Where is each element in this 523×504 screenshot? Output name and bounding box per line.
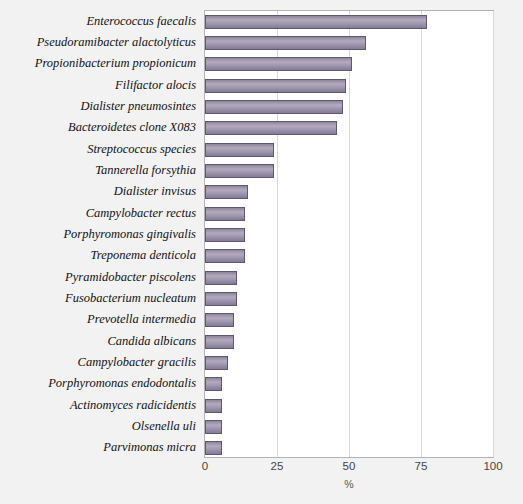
bar bbox=[205, 335, 234, 349]
bar-row bbox=[205, 420, 493, 434]
category-label: Fusobacterium nucleatum bbox=[65, 291, 196, 305]
category-label: Candida albicans bbox=[107, 334, 196, 348]
bar bbox=[205, 15, 427, 29]
category-label: Campylobacter rectus bbox=[86, 206, 196, 220]
category-label: Pyramidobacter piscolens bbox=[65, 270, 196, 284]
category-label: Actinomyces radicidentis bbox=[70, 398, 196, 412]
x-tick-label: 100 bbox=[483, 460, 502, 472]
category-label: Treponema denticola bbox=[91, 248, 196, 262]
bar bbox=[205, 36, 366, 50]
category-label: Prevotella intermedia bbox=[87, 312, 196, 326]
bar-row bbox=[205, 377, 493, 391]
x-tick-label: 75 bbox=[415, 460, 428, 472]
bar-row bbox=[205, 36, 493, 50]
bar bbox=[205, 313, 234, 327]
bar-row bbox=[205, 249, 493, 263]
bar bbox=[205, 164, 274, 178]
category-label: Dialister pneumosintes bbox=[80, 99, 196, 113]
bar bbox=[205, 57, 352, 71]
category-label: Propionibacterium propionicum bbox=[35, 56, 196, 70]
category-label: Campylobacter gracilis bbox=[78, 355, 196, 369]
category-label: Filifactor alocis bbox=[115, 78, 196, 92]
bar-row bbox=[205, 121, 493, 135]
x-tick-label: 25 bbox=[271, 460, 284, 472]
bar-row bbox=[205, 292, 493, 306]
category-label: Streptococcus species bbox=[87, 142, 196, 156]
gridline bbox=[493, 11, 494, 457]
bar bbox=[205, 441, 222, 455]
bar bbox=[205, 356, 228, 370]
bar bbox=[205, 292, 237, 306]
bar-row bbox=[205, 164, 493, 178]
bar bbox=[205, 271, 237, 285]
bar-row bbox=[205, 15, 493, 29]
category-label: Porphyromonas endodontalis bbox=[48, 376, 196, 390]
bar-row bbox=[205, 356, 493, 370]
bar bbox=[205, 121, 337, 135]
bar-row bbox=[205, 399, 493, 413]
bar bbox=[205, 228, 245, 242]
bar bbox=[205, 420, 222, 434]
bar bbox=[205, 399, 222, 413]
bar bbox=[205, 249, 245, 263]
category-label: Bacteroidetes clone X083 bbox=[68, 120, 196, 134]
category-label: Tannerella forsythia bbox=[95, 163, 196, 177]
plot-area bbox=[204, 10, 494, 458]
bar-row bbox=[205, 271, 493, 285]
x-axis-ticks: 0255075100 bbox=[204, 458, 494, 480]
x-tick-label: 50 bbox=[343, 460, 356, 472]
category-label: Parvimonas micra bbox=[103, 440, 196, 454]
bar-row bbox=[205, 228, 493, 242]
bars bbox=[205, 11, 493, 457]
bar-row bbox=[205, 207, 493, 221]
bar-row bbox=[205, 143, 493, 157]
category-labels: Enterococcus faecalisPseudoramibacter al… bbox=[0, 10, 200, 458]
bar bbox=[205, 100, 343, 114]
bar bbox=[205, 143, 274, 157]
bar-row bbox=[205, 57, 493, 71]
category-label: Enterococcus faecalis bbox=[86, 14, 196, 28]
bar-row bbox=[205, 313, 493, 327]
category-label: Olsenella uli bbox=[132, 419, 196, 433]
bar bbox=[205, 79, 346, 93]
x-axis-title: % bbox=[204, 478, 494, 490]
bar-row bbox=[205, 185, 493, 199]
x-tick-label: 0 bbox=[202, 460, 208, 472]
bar-row bbox=[205, 335, 493, 349]
category-label: Dialister invisus bbox=[114, 184, 196, 198]
bar-row bbox=[205, 100, 493, 114]
bar bbox=[205, 185, 248, 199]
horizontal-bar-chart: Enterococcus faecalisPseudoramibacter al… bbox=[0, 0, 523, 504]
bar-row bbox=[205, 79, 493, 93]
category-label: Porphyromonas gingivalis bbox=[63, 227, 196, 241]
category-label: Pseudoramibacter alactolyticus bbox=[37, 35, 196, 49]
bar-row bbox=[205, 441, 493, 455]
bar bbox=[205, 377, 222, 391]
bar bbox=[205, 207, 245, 221]
